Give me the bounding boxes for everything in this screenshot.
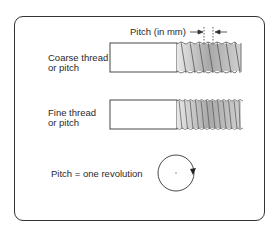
diagram-graphics [0,0,280,234]
coarse-bolt [110,42,241,73]
revolution-circle-icon [158,155,196,191]
fine-bolt [110,100,243,130]
